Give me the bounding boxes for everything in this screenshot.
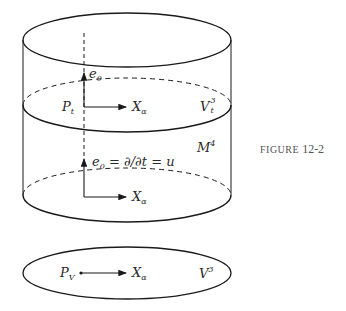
label-v3: V3 — [199, 266, 213, 280]
label-point-pv: PV — [60, 266, 75, 282]
top-ellipse — [23, 13, 231, 67]
label-e0-equation: e0 = ∂/∂t = u — [92, 155, 175, 171]
label-slice-vt3: V3t — [200, 100, 216, 113]
label-x-alpha-bottom: Xα — [132, 266, 147, 282]
label-point-pt: Pt — [62, 100, 74, 116]
figure-caption: FIGURE 12-2 — [260, 142, 324, 157]
label-x-alpha-mid: Xα — [132, 190, 147, 206]
label-x-alpha-top: Xα — [132, 100, 147, 116]
figure-12-2: e0 Pt Xα V3t M4 e0 = ∂/∂t = u Xα PV Xα V… — [0, 0, 346, 311]
label-manifold-m4: M4 — [197, 140, 215, 154]
bottom-ellipse-front — [23, 195, 231, 222]
bottom-ellipse-back — [23, 168, 231, 195]
label-e0-top: e0 — [89, 67, 102, 83]
